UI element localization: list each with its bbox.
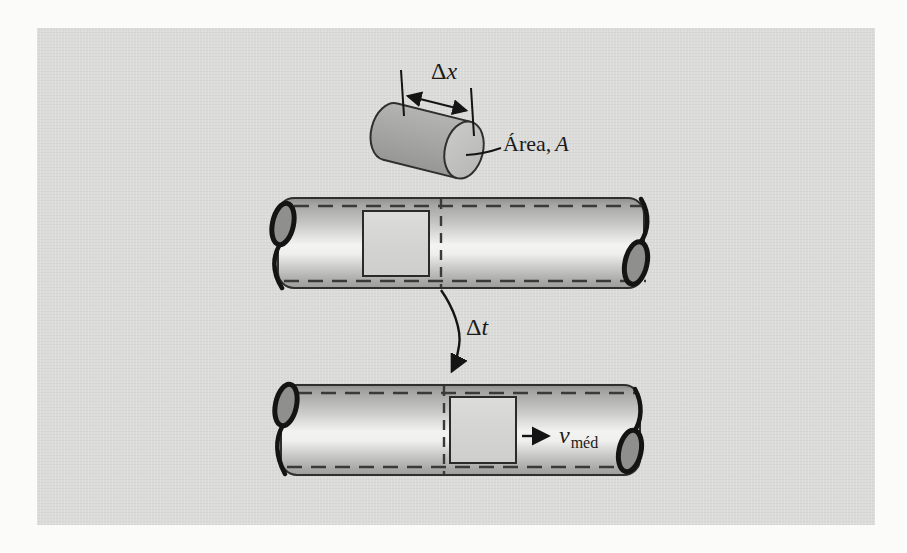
velocity-subscript: méd [571,434,599,451]
area-word: Área, [503,131,551,156]
figure-root: Δx Área,A Δt vméd [0,0,907,553]
delta-x-symbol: x [446,58,457,84]
charge-square-bottom [450,397,516,463]
charge-square-top [363,211,429,276]
delta-x-delta: Δ [431,58,446,84]
delta-t-arrow [441,290,460,371]
wire-top [268,198,651,288]
area-symbol: A [555,131,568,156]
delta-x-label: Δx [431,59,457,83]
charge-cylinder [365,99,490,183]
velocity-label: vméd [559,423,598,447]
area-label: Área,A [503,133,569,155]
velocity-symbol: v [559,422,570,448]
delta-t-label: Δt [466,315,488,339]
wire-top-body [278,198,644,288]
delta-t-symbol: t [481,314,488,340]
delta-t-delta: Δ [466,314,481,340]
